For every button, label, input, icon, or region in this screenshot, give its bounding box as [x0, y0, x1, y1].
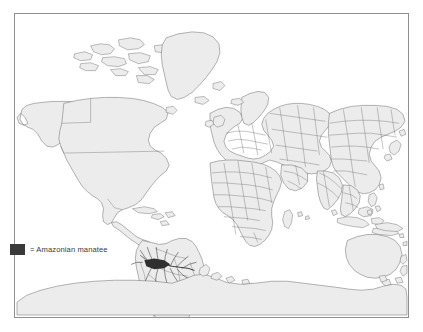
continent-antarctica: [17, 264, 407, 315]
continent-north-america: [17, 38, 177, 252]
continent-greenland: [161, 32, 225, 105]
world-map-svg: [15, 14, 408, 317]
legend-swatch-amazonian-manatee: [10, 244, 25, 255]
map-frame: [14, 13, 409, 318]
distribution-map-figure: = Amazonian manatee: [0, 0, 423, 332]
legend: = Amazonian manatee: [10, 244, 108, 255]
legend-label-amazonian-manatee: = Amazonian manatee: [30, 245, 108, 254]
